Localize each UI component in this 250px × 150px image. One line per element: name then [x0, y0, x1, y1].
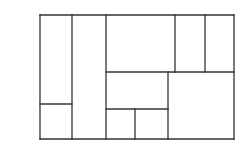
- cell-left-small: [40, 104, 72, 139]
- cell-top-narrow-2: [205, 15, 234, 72]
- cell-middle: [106, 72, 168, 109]
- cell-bottom-small-2: [135, 109, 168, 139]
- cell-top-narrow-1: [175, 15, 205, 72]
- cell-bottom-small-1: [106, 109, 135, 139]
- cell-top-wide: [106, 15, 175, 72]
- cell-left-tall: [40, 15, 72, 104]
- cell-bottom-right-square: [168, 72, 234, 139]
- rectangle-partition-diagram: [0, 0, 250, 150]
- cell-second-column: [72, 15, 106, 139]
